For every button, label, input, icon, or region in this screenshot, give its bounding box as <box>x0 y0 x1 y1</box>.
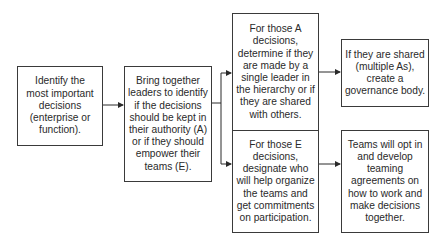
node-identify-decisions: Identify the most important decisions (e… <box>17 66 103 146</box>
node-e-decisions: For those E decisions, designate who wil… <box>232 130 319 233</box>
node-text: If they are shared (multiple As), create… <box>344 49 426 98</box>
node-text: Bring together leaders to identify if th… <box>127 75 209 173</box>
node-teaming-agreements: Teams will opt in and develop teaming ag… <box>341 130 429 233</box>
node-a-decisions: For those A decisions, determine if they… <box>232 13 319 131</box>
node-bring-together-leaders: Bring together leaders to identify if th… <box>124 66 212 182</box>
node-governance-body: If they are shared (multiple As), create… <box>341 39 429 107</box>
node-text: Identify the most important decisions (e… <box>24 75 96 136</box>
node-text: For those E decisions, designate who wil… <box>235 139 316 224</box>
node-text: Teams will opt in and develop teaming ag… <box>347 139 423 224</box>
node-text: For those A decisions, determine if they… <box>235 23 316 121</box>
